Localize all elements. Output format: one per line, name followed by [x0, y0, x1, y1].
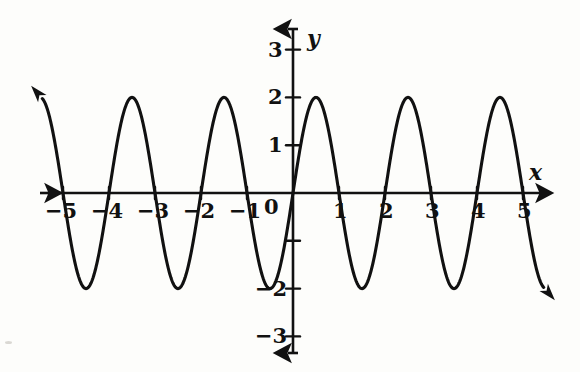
- x-tick-label: −5: [45, 200, 77, 221]
- x-tick-label: −4: [91, 200, 123, 221]
- y-tick-label: −3: [255, 325, 287, 346]
- x-tick-label: −3: [137, 200, 169, 221]
- scan-speck: [5, 341, 12, 344]
- graph-figure: 0 x y −5−4−3−2−112345 321−2−3: [0, 0, 580, 372]
- y-tick-label: 2: [268, 86, 283, 107]
- x-tick-label: 5: [517, 200, 532, 221]
- x-tick-label: 1: [333, 200, 348, 221]
- coordinate-plane-svg: [0, 0, 580, 372]
- x-tick-label: 2: [379, 200, 394, 221]
- x-tick-label: −1: [229, 200, 261, 221]
- y-axis-label: y: [307, 27, 320, 49]
- x-tick-label: 4: [471, 200, 486, 221]
- origin-label: 0: [264, 196, 279, 217]
- y-tick-label: 3: [268, 39, 283, 60]
- y-tick-label: 1: [268, 134, 283, 155]
- x-tick-label: 3: [425, 200, 440, 221]
- y-tick-label: −2: [255, 278, 287, 299]
- x-tick-label: −2: [183, 200, 215, 221]
- x-axis-label: x: [529, 161, 542, 183]
